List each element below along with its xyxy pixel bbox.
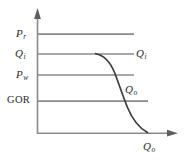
level-label-injection-rate: Qi [15,48,25,59]
level-label-reservoir-pressure: Pr [16,28,26,39]
arrow-right-icon [167,130,178,137]
level-label-wellbore-pressure: Pw [16,69,28,80]
arrow-up-icon [34,8,41,19]
performance-curve [96,54,148,133]
series-label-qi: Qi [136,48,146,59]
level-label-gas-oil-ratio: GOR [7,95,30,106]
x-axis-label: Qo [143,141,155,152]
figure-container: Pr Qi Pw GOR Qi Qo Qo [0,0,185,162]
series-label-qo: Qo [125,84,137,95]
